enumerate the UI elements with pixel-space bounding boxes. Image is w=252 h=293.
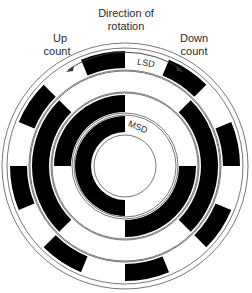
encoder-rings [10, 51, 240, 281]
down-count-label-line2: count [181, 45, 208, 57]
lsd-label: LSD [137, 57, 156, 70]
ring-boundary [94, 135, 156, 197]
direction-label-line1: Direction of [98, 7, 155, 19]
direction-label-line2: rotation [108, 20, 145, 32]
up-count-label-line1: Up [53, 32, 67, 44]
msd-label: MSD [127, 119, 150, 136]
ring-segment-black [125, 257, 169, 281]
ring-segment-black [44, 235, 88, 272]
encoder-disk-diagram: Direction of rotation Up count Down coun… [0, 0, 252, 293]
ring-segment-black [163, 60, 207, 97]
ring-segment-black [216, 122, 240, 166]
down-count-label-line1: Down [180, 32, 208, 44]
ring-segment-black [10, 166, 34, 210]
arrow-head-left-icon [66, 66, 74, 72]
up-count-label-line2: count [44, 45, 71, 57]
